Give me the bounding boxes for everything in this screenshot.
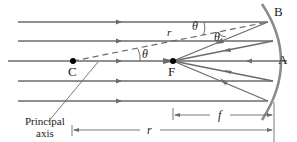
label-axis: axis — [36, 127, 54, 139]
label-theta-reflect: θ — [214, 30, 220, 44]
label-c: C — [68, 64, 77, 79]
label-r-radius: r — [167, 26, 172, 38]
label-b: B — [274, 4, 283, 19]
label-f-length: f — [218, 108, 223, 122]
incident-rays — [8, 22, 287, 101]
label-principal: Principal — [25, 115, 65, 127]
angle-arc-top — [203, 22, 205, 35]
label-r-dim: r — [147, 123, 152, 137]
dimension-lines — [72, 102, 274, 142]
concave-mirror-diagram: C F A B r θ θ θ Principal axis f r — [0, 0, 297, 142]
label-theta-top: θ — [192, 19, 198, 33]
label-a: A — [278, 52, 288, 67]
label-theta-c: θ — [142, 47, 148, 61]
angle-arc-c — [138, 49, 140, 61]
label-f: F — [168, 64, 175, 79]
